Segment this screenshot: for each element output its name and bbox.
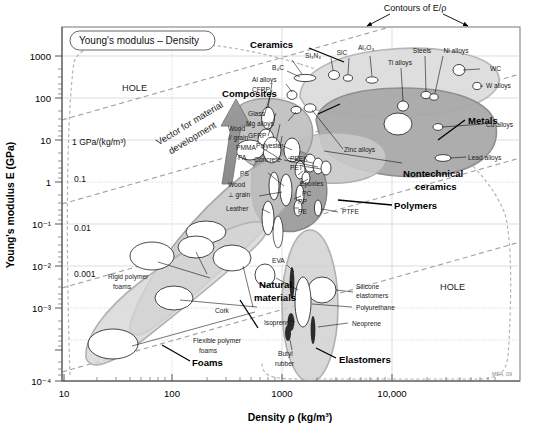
label-lead-alloys: Lead alloys [468, 154, 502, 162]
label-wood-parallel-1: Wood [228, 125, 245, 132]
x-tick-100: 100 [164, 388, 180, 399]
bar-neoprene [311, 316, 316, 344]
family-label-nontechnical-2: ceramics [415, 181, 457, 192]
label-pet: PET [290, 164, 303, 171]
label-butyl-1: Butyl [278, 350, 293, 358]
label-steels: Steels [413, 47, 432, 54]
x-tick-10000: 10,000 [377, 388, 406, 399]
label-rigid-foams-1: Rigid polymer [108, 273, 149, 281]
label-wood-perp-2: ⊥ grain [228, 191, 251, 199]
label-leather: Leather [226, 205, 249, 212]
family-label-ceramics: Ceramics [250, 39, 293, 50]
contour-label-0p01: 0.01 [74, 223, 91, 233]
label-wood-parallel-2: // grain [228, 134, 248, 142]
bubble-pa [280, 174, 292, 206]
label-cork: Cork [215, 307, 230, 314]
bar-butyl-rubber [285, 325, 291, 341]
label-pp: PP [298, 198, 307, 205]
bubble-cu-alloys [433, 124, 443, 131]
contour-label-0p001: 0.001 [74, 269, 96, 279]
family-label-foams: Foams [192, 357, 223, 368]
hole-label-lower: HOLE [440, 282, 465, 292]
label-epoxies: Epoxies [300, 180, 324, 188]
label-rigid-foams-2: foams [113, 283, 132, 290]
x-axis-title: Density ρ (kg/m³) [248, 412, 332, 423]
bubble-ti-alloys [398, 101, 409, 111]
family-label-natural-1: Natural [259, 279, 292, 290]
label-flex-foams-1: Flexible polymer [193, 337, 242, 345]
label-pmma: PMMA [236, 144, 256, 151]
label-pa: PA [238, 154, 247, 161]
bubble-rigid-foams-1 [130, 242, 174, 270]
bubble-zinc-alloys [304, 104, 316, 112]
label-zinc-alloys: Zinc alloys [344, 146, 376, 154]
label-peek: PEEK [290, 155, 308, 162]
label-pc: PC [302, 190, 311, 197]
label-wc: WC [490, 65, 501, 72]
ashby-chart: Contours of E/ρ Young's modulus – Densit… [0, 0, 533, 433]
label-cu-alloys: Cu alloys [486, 121, 514, 129]
label-b4c: B₄C [272, 64, 284, 71]
label-wood-perp-1: Wood [228, 181, 245, 188]
family-label-polymers: Polymers [394, 200, 437, 211]
bubble-natural-1 [213, 245, 251, 271]
bubble-polyurethane [295, 277, 311, 327]
material-white-caps [273, 216, 283, 248]
bubble-pet [321, 161, 331, 175]
label-silicone-2: elastomers [356, 292, 389, 299]
label-al2o3: Al₂O₃ [358, 44, 375, 51]
chart-title-box: Young's modulus – Density [70, 31, 215, 50]
bubble-al2o3 [366, 77, 378, 83]
label-ni-alloys: Ni alloys [444, 47, 470, 55]
y-tick-10: 10 [40, 135, 51, 146]
y-tick-1e-3: 10⁻³ [32, 303, 51, 314]
bubble-mg-alloys [291, 106, 301, 113]
y-tick-1: 1 [46, 177, 51, 188]
label-ptfe: PTFE [342, 208, 359, 215]
y-axis-title: Young's modulus E (GPa) [5, 142, 16, 268]
label-al-alloys: Al alloys [252, 76, 277, 84]
label-sic: SiC [337, 49, 348, 56]
label-glass: Glass [248, 110, 266, 117]
bubble-flex-foams-2 [88, 329, 138, 359]
label-eva: EVA [272, 257, 285, 264]
family-label-nontechnical-1: Nontechnical [403, 168, 463, 179]
hole-label-upper: HOLE [122, 83, 147, 93]
label-silicone-1: Silicone [356, 283, 379, 290]
y-tick-100: 100 [35, 93, 51, 104]
x-tick-1000: 1000 [271, 388, 292, 399]
bubble-walloys [473, 82, 481, 89]
watermark: MFA, 09 [492, 371, 512, 377]
y-tick-1e-1: 10⁻¹ [32, 219, 51, 230]
label-mg-alloys: Mg alloys [246, 120, 275, 128]
label-polyurethane: Polyurethane [356, 304, 395, 312]
label-ps: PS [240, 170, 249, 177]
bubble-metals-core [384, 113, 412, 135]
bubble-natural-core [273, 216, 283, 248]
label-cfrp: CFRP [252, 86, 271, 93]
label-si3n4: Si₃N₄ [305, 52, 321, 59]
label-ti-alloys: Ti alloys [388, 59, 413, 67]
label-isoprene: Isoprene [264, 319, 290, 327]
bubble-silicone [308, 277, 336, 303]
y-tick-1e-4: 10⁻⁴ [31, 376, 51, 387]
family-label-natural-2: materials [254, 292, 296, 303]
bubble-ni-alloys [430, 94, 438, 100]
contours-header-label: Contours of E/ρ [384, 3, 447, 13]
bubble-rigid-foams-2 [178, 236, 214, 258]
bubble-ptfe [314, 200, 321, 216]
bubble-leather [262, 201, 274, 235]
bubble-lead-alloys [435, 155, 451, 162]
label-butyl-2: rubber [275, 360, 295, 367]
bubble-si3n4 [329, 71, 340, 80]
label-concrete: Concrete [254, 156, 281, 163]
contour-label-0p1: 0.1 [74, 174, 86, 184]
y-tick-1e-2: 10⁻² [32, 261, 52, 272]
label-polyester: Polyester [256, 142, 284, 150]
contour-label-1: 1 GPa/(kg/m³) [72, 137, 126, 147]
chart-title-text: Young's modulus – Density [79, 35, 199, 46]
family-label-elastomers: Elastomers [339, 354, 391, 365]
label-w-alloys: W alloys [486, 82, 512, 90]
label-pe: PE [298, 208, 307, 215]
bubble-ps [269, 172, 279, 200]
